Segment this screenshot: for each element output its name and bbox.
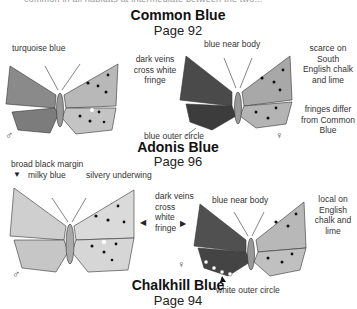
- adonis-blue-illustrations: [0, 0, 357, 309]
- page-ref-chalkhill-blue[interactable]: Page 94: [118, 293, 238, 308]
- species-title-chalkhill-blue: Chalkhill Blue: [118, 277, 238, 293]
